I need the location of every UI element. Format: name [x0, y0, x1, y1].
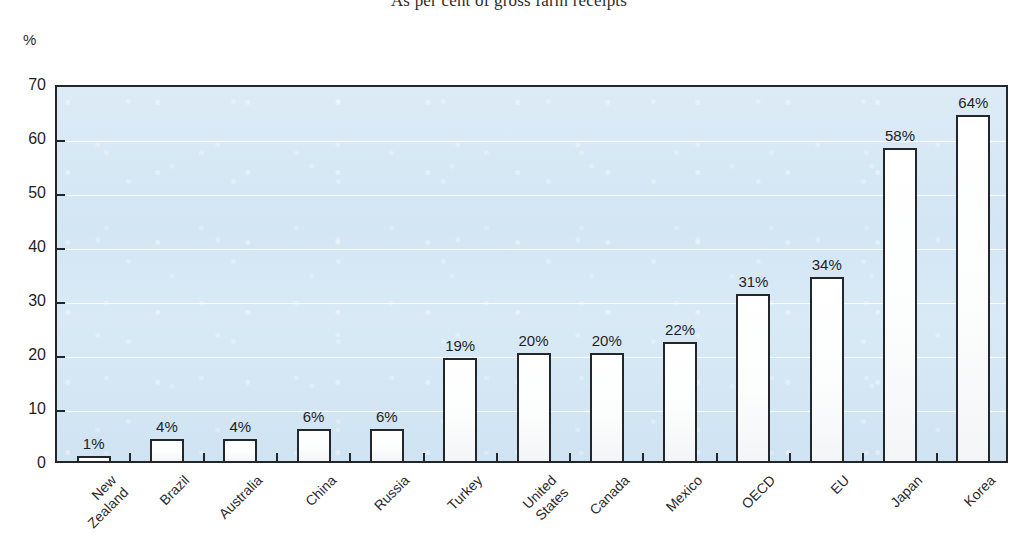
bar[interactable]	[370, 429, 404, 461]
bar-value-label: 4%	[156, 418, 178, 435]
gridline-60	[57, 141, 1006, 142]
bar[interactable]	[590, 353, 624, 461]
bar-value-label: 64%	[958, 94, 988, 111]
x-axis-tick-mark	[716, 453, 718, 462]
bar[interactable]	[956, 115, 990, 461]
bar[interactable]	[736, 294, 770, 461]
y-axis-label-70: 70	[4, 76, 46, 94]
y-axis-tick-mark-20	[57, 356, 65, 358]
bar[interactable]	[297, 429, 331, 461]
y-axis-label-0: 0	[4, 454, 46, 472]
x-axis-tick-mark	[203, 453, 205, 462]
bar-value-label: 58%	[885, 127, 915, 144]
bar-value-label: 20%	[592, 332, 622, 349]
gridline-40	[57, 249, 1006, 250]
y-axis-label-30: 30	[4, 292, 46, 310]
x-axis-tick-mark	[789, 453, 791, 462]
y-axis-label-60: 60	[4, 130, 46, 148]
x-axis-tick-mark	[936, 453, 938, 462]
bar[interactable]	[150, 439, 184, 461]
gridline-30	[57, 303, 1006, 304]
y-axis-unit-label: %	[23, 31, 36, 48]
x-axis-category-label[interactable]: New Zealand	[23, 472, 131, 546]
y-axis-label-10: 10	[4, 400, 46, 418]
bar-value-label: 22%	[665, 321, 695, 338]
bar[interactable]	[883, 148, 917, 461]
x-axis-tick-mark	[862, 453, 864, 462]
y-axis-label-40: 40	[4, 238, 46, 256]
bar-value-label: 34%	[812, 256, 842, 273]
y-axis-tick-mark-60	[57, 140, 65, 142]
y-axis-tick-mark-50	[57, 194, 65, 196]
x-axis-tick-mark	[129, 453, 131, 462]
bar-value-label: 6%	[303, 408, 325, 425]
x-axis-tick-mark	[642, 453, 644, 462]
bar-value-label: 19%	[445, 337, 475, 354]
y-axis-tick-mark-40	[57, 248, 65, 250]
page-title: As per cent of gross farm receipts	[0, 0, 1018, 11]
gridline-50	[57, 195, 1006, 196]
y-axis-label-20: 20	[4, 346, 46, 364]
y-axis-tick-mark-30	[57, 302, 65, 304]
bar-value-label: 31%	[738, 273, 768, 290]
bar[interactable]	[77, 456, 111, 461]
bar[interactable]	[517, 353, 551, 461]
bar[interactable]	[810, 277, 844, 461]
x-axis-tick-mark	[569, 453, 571, 462]
chart-plot-area: 1%4%4%6%6%19%20%20%22%31%34%58%64%	[55, 85, 1008, 463]
bar-value-label: 6%	[376, 408, 398, 425]
x-axis-tick-mark	[496, 453, 498, 462]
x-axis-tick-mark	[349, 453, 351, 462]
y-axis-tick-mark-10	[57, 410, 65, 412]
bar[interactable]	[223, 439, 257, 461]
x-axis-tick-mark	[276, 453, 278, 462]
x-axis-tick-mark	[423, 453, 425, 462]
bar-value-label: 1%	[83, 435, 105, 452]
bar-value-label: 4%	[229, 418, 251, 435]
y-axis-label-50: 50	[4, 184, 46, 202]
bar[interactable]	[663, 342, 697, 461]
bar-value-label: 20%	[518, 332, 548, 349]
bar[interactable]	[443, 358, 477, 461]
